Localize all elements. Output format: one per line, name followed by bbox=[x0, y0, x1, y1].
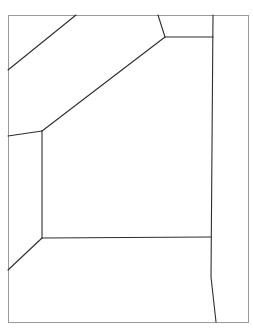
right-vertical-line bbox=[211, 15, 216, 322]
left-wall-top-line bbox=[8, 131, 42, 136]
ceiling-diagonal-line bbox=[42, 37, 165, 131]
top-short-slant-line bbox=[158, 15, 165, 37]
diagram-lines bbox=[8, 15, 216, 322]
lower-left-diagonal-line bbox=[8, 238, 42, 270]
caption-text bbox=[34, 324, 224, 331]
room-line-diagram bbox=[0, 0, 253, 331]
floor-back-edge-line bbox=[42, 237, 211, 238]
upper-left-diagonal-line bbox=[8, 15, 76, 70]
